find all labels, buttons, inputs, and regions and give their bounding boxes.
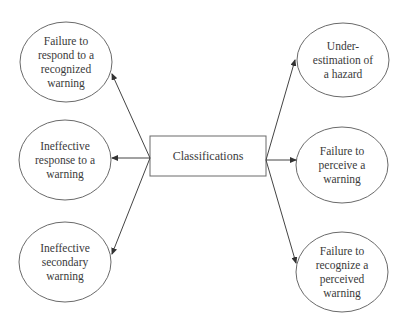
arrow-to-failure-to-respond — [112, 74, 150, 158]
node-label-failure-to-recognize: Failure to recognize a perceived warning — [298, 234, 386, 310]
node-label-underestimation: Under- estimation of a hazard — [299, 23, 387, 97]
arrow-to-ineffective-secondary — [112, 158, 150, 254]
center-label: Classifications — [150, 136, 266, 176]
node-label-ineffective-response: Ineffective response to a warning — [21, 122, 109, 198]
arrow-to-underestimation — [266, 60, 295, 160]
node-label-failure-to-perceive: Failure to perceive a warning — [298, 127, 386, 203]
node-label-failure-to-respond: Failure to respond to a recognized warni… — [22, 24, 110, 100]
classification-diagram: Classifications Failure to respond to a … — [0, 0, 407, 326]
node-label-ineffective-secondary: Ineffective secondary warning — [21, 224, 109, 300]
arrow-to-failure-to-recognize — [266, 160, 296, 263]
